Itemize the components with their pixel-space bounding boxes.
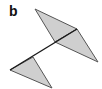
spine-line bbox=[10, 29, 77, 70]
diagram-panel: b bbox=[0, 0, 102, 89]
lower-triangle bbox=[10, 57, 52, 88]
folded-shape-diagram bbox=[0, 0, 102, 89]
